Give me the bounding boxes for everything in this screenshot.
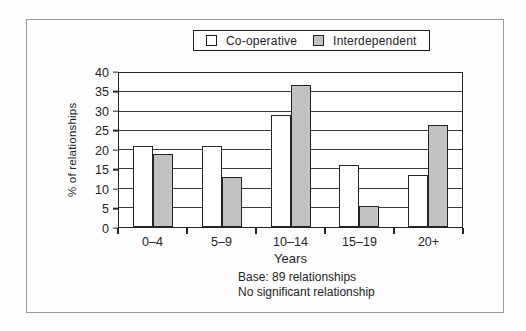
figure-canvas: Co-operativeInterdependent % of relation… [0, 0, 526, 331]
legend-entry: Interdependent [313, 34, 417, 48]
bar-co-operative [202, 146, 222, 227]
y-tick-label: 5 [102, 203, 109, 216]
footnote-block: Base: 89 relationships No significant re… [238, 270, 375, 299]
legend-entry: Co-operative [206, 34, 297, 48]
x-tick [393, 228, 394, 234]
x-tick-label: 5–9 [187, 235, 256, 249]
y-tick-label: 10 [95, 183, 109, 196]
y-tick-label: 0 [102, 222, 109, 235]
y-tick-label: 15 [95, 164, 109, 177]
x-tick-label: 15–19 [325, 235, 394, 249]
legend: Co-operativeInterdependent [193, 30, 430, 51]
bar-interdependent [428, 125, 448, 227]
bar-co-operative [408, 175, 428, 227]
footnote-base: Base: 89 relationships [238, 270, 375, 285]
y-axis: 0510152025303540 [0, 72, 118, 228]
bar-co-operative [271, 115, 291, 227]
y-tick-label: 30 [95, 105, 109, 118]
bar-interdependent [222, 177, 242, 227]
bar-co-operative [133, 146, 153, 227]
bar-co-operative [339, 165, 359, 227]
legend-swatch-icon [206, 35, 217, 46]
bar-interdependent [291, 85, 311, 227]
legend-label: Interdependent [333, 34, 417, 48]
x-tick [324, 228, 325, 234]
footnote-significance: No significant relationship [238, 285, 375, 300]
x-tick-label: 0–4 [118, 235, 187, 249]
x-tick-label: 20+ [394, 235, 463, 249]
x-axis-title: Years [118, 251, 463, 266]
x-tick [255, 228, 256, 234]
y-tick-label: 25 [95, 125, 109, 138]
bar-interdependent [153, 154, 173, 227]
legend-label: Co-operative [226, 34, 297, 48]
x-tick [462, 228, 463, 234]
x-tick-label: 10–14 [256, 235, 325, 249]
bar-interdependent [359, 206, 379, 227]
y-tick-label: 20 [95, 144, 109, 157]
x-tick [186, 228, 187, 234]
y-tick-label: 35 [95, 86, 109, 99]
y-tick-label: 40 [95, 66, 109, 79]
x-tick [117, 228, 118, 234]
legend-swatch-icon [313, 35, 324, 46]
plot-area [118, 72, 463, 228]
